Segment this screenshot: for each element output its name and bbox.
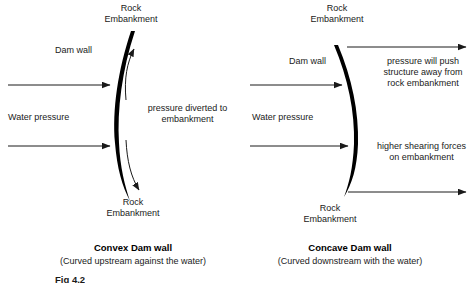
convex-pressure-diverted-annotation: pressure diverted to embankment	[135, 103, 240, 125]
convex-lower-diverted-arrow	[126, 140, 139, 190]
convex-water-pressure-label: Water pressure	[8, 112, 69, 123]
convex-bottom-embankment-label: Rock Embankment	[106, 197, 159, 219]
figure-caption-label: Fig 4.2	[55, 274, 85, 283]
concave-panel-subtitle: (Curved downstream with the water)	[278, 256, 423, 266]
concave-shearing-forces-annotation: higher shearing forces on embankment	[368, 141, 475, 163]
convex-dam-wall-label: Dam wall	[55, 45, 92, 56]
concave-panel-title: Concave Dam wall	[308, 242, 391, 253]
convex-top-embankment-label: Rock Embankment	[104, 3, 157, 25]
convex-panel-title: Convex Dam wall	[94, 242, 172, 253]
concave-pressure-push-annotation: pressure will push structure away from r…	[371, 56, 475, 89]
dam-wall-comparison-figure: Rock Embankment Dam wall Water pressure …	[0, 0, 475, 283]
concave-top-embankment-label: Rock Embankment	[310, 3, 363, 25]
concave-bottom-embankment-label: Rock Embankment	[303, 203, 356, 225]
concave-dam-wall-label: Dam wall	[289, 56, 326, 67]
convex-panel-subtitle: (Curved upstream against the water)	[60, 256, 206, 266]
concave-dam-wall-shape	[334, 45, 358, 197]
concave-water-pressure-label: Water pressure	[252, 112, 313, 123]
